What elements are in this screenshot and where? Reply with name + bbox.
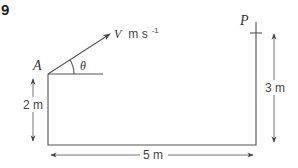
question-number: 9: [1, 1, 9, 18]
point-p-label: P: [239, 13, 249, 28]
angle-theta-label: θ: [80, 59, 86, 73]
velocity-label: V m s -1: [114, 24, 159, 41]
horizontal-distance-label: 5 m: [143, 148, 163, 162]
height-a-label: 2 m: [23, 98, 43, 112]
velocity-arrow: [48, 34, 110, 74]
point-a-label: A: [32, 58, 42, 73]
height-p-label: 3 m: [265, 81, 285, 95]
projectile-diagram: 9 P A θ V m s -1 2 m 3 m 5 m: [0, 0, 298, 168]
angle-arc: [70, 60, 74, 74]
ground-outline: [48, 22, 256, 145]
